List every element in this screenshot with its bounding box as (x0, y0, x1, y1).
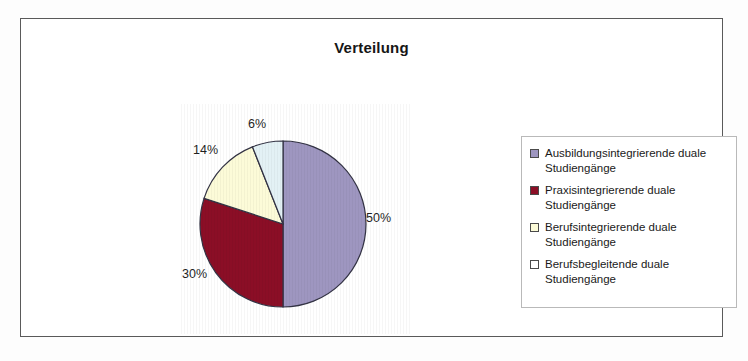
legend-item-label-line1: Berufsbegleitende duale (545, 258, 669, 270)
pie-slice-label-4: 6% (248, 117, 266, 131)
legend-item: Berufsbegleitende dualeStudiengänge (530, 257, 730, 287)
chart-frame: Verteilung 50% 30% 14% 6% Ausbildungsint… (20, 18, 723, 337)
legend-item-label-line1: Berufsintegrierende duale (545, 221, 677, 233)
legend-item-label: Berufsintegrierende dualeStudiengänge (545, 220, 677, 250)
legend-item-label: Praxisintegrierende dualeStudiengänge (545, 183, 675, 213)
legend-item-label-line2: Studiengänge (545, 161, 706, 176)
legend-item-label-line1: Ausbildungsintegrierende duale (545, 147, 706, 159)
legend-item-label-line2: Studiengänge (545, 198, 675, 213)
legend-item-label: Berufsbegleitende dualeStudiengänge (545, 257, 669, 287)
legend-swatch-icon (530, 186, 539, 195)
legend-swatch-icon (530, 149, 539, 158)
pie-slice-label-3: 14% (193, 143, 218, 157)
pie-slices (200, 141, 366, 307)
legend-item-label-line1: Praxisintegrierende duale (545, 184, 675, 196)
pie-slice (283, 141, 366, 307)
legend-swatch-icon (530, 260, 539, 269)
chart-title: Verteilung (21, 39, 722, 56)
pie-slice-label-2: 30% (182, 267, 207, 281)
pie-slice-label-1: 50% (366, 211, 391, 225)
legend-item: Praxisintegrierende dualeStudiengänge (530, 183, 730, 213)
legend-item: Berufsintegrierende dualeStudiengänge (530, 220, 730, 250)
chart-legend: Ausbildungsintegrierende dualeStudiengän… (521, 136, 737, 308)
legend-item: Ausbildungsintegrierende dualeStudiengän… (530, 146, 730, 176)
legend-item-label-line2: Studiengänge (545, 272, 669, 287)
legend-item-label-line2: Studiengänge (545, 235, 677, 250)
legend-swatch-icon (530, 223, 539, 232)
legend-item-label: Ausbildungsintegrierende dualeStudiengän… (545, 146, 706, 176)
